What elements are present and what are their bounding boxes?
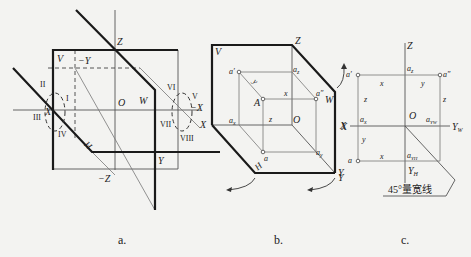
label-z-b: Z bbox=[295, 35, 301, 46]
right-octant-rotation-icon bbox=[172, 93, 192, 131]
point-a-double-prime-c bbox=[438, 73, 442, 77]
label-octant-2: II bbox=[40, 80, 46, 89]
label-dim-x-top: x bbox=[379, 79, 384, 88]
label-w-plane-b: W bbox=[325, 94, 335, 105]
label-ay-b: ay bbox=[316, 148, 323, 158]
caption-c: c. bbox=[401, 233, 409, 247]
label-a-double-prime-b: a″ bbox=[316, 89, 324, 98]
label-dim-z-b: z bbox=[268, 115, 273, 124]
label-x-left: X bbox=[44, 106, 52, 117]
label-dim-y-top: y bbox=[420, 79, 425, 88]
label-a-c: a bbox=[348, 156, 352, 165]
label-yw-c: YW bbox=[452, 121, 464, 133]
label-octant-8: VIII bbox=[180, 134, 194, 143]
label-yh-c: YH bbox=[408, 165, 419, 177]
label-dim-y-b: y bbox=[250, 76, 260, 86]
label-az-b: az bbox=[293, 65, 300, 75]
figure-c: Z a′ az a″ x y z z O ax aYW X YW y x a a… bbox=[338, 40, 464, 247]
label-dim-y-left: y bbox=[361, 135, 366, 144]
point-a-c bbox=[356, 159, 360, 163]
label-a-prime-b: a′ bbox=[229, 67, 235, 76]
label-origin: O bbox=[118, 97, 125, 108]
label-neg-z: −Z bbox=[98, 173, 111, 184]
label-z: Z bbox=[117, 36, 123, 47]
label-octant-7: VII bbox=[160, 120, 171, 129]
caption-b: b. bbox=[274, 233, 283, 247]
label-x-right: X bbox=[199, 119, 207, 130]
label-dim-x-bottom: x bbox=[379, 152, 384, 161]
point-a-prime bbox=[237, 70, 241, 74]
w-rotation-arrow-icon-bottom bbox=[310, 178, 335, 190]
label-A: A bbox=[253, 97, 261, 108]
label-dim-z-left: z bbox=[363, 95, 368, 104]
figure-a: V Z −Y O W X −X X Y −Z H I II III IV V V… bbox=[13, 10, 220, 247]
box-a-prime-a bbox=[239, 72, 263, 99]
label-ayh-c: aYH bbox=[407, 151, 418, 161]
h-rotation-arrow-icon bbox=[228, 178, 255, 190]
label-y: Y bbox=[158, 155, 165, 166]
label-z-c: Z bbox=[407, 40, 413, 51]
label-origin-b: O bbox=[293, 114, 300, 125]
label-octant-5: V bbox=[192, 92, 198, 101]
w-rotation-arrow-icon-top bbox=[337, 66, 344, 88]
h-plane-front-diagonal bbox=[92, 152, 115, 175]
label-a-prime-c: a′ bbox=[346, 70, 352, 79]
label-neg-x: −X bbox=[190, 102, 204, 113]
arrowhead-icon bbox=[226, 187, 232, 192]
label-a-b: a bbox=[264, 154, 268, 163]
arrowhead-icon bbox=[341, 63, 347, 69]
figure-b: V Z a′ az y A x a″ W ax z O a ay X Y H b… bbox=[212, 35, 347, 247]
label-ax-c: ax bbox=[360, 115, 367, 125]
label-octant-1: I bbox=[66, 94, 69, 103]
label-dim-x-b: x bbox=[283, 89, 288, 98]
label-w-plane: W bbox=[139, 95, 149, 106]
caption-a: a. bbox=[118, 233, 126, 247]
label-neg-y: −Y bbox=[78, 55, 92, 66]
box-ax-a bbox=[239, 125, 263, 152]
label-h-plane: H bbox=[82, 139, 95, 152]
arrowhead-icon bbox=[307, 187, 313, 192]
label-y-left-c: Y bbox=[338, 167, 345, 178]
label-a-double-prime-c: a″ bbox=[443, 70, 451, 79]
point-a-prime-c bbox=[356, 73, 360, 77]
y-axis-b bbox=[292, 125, 335, 173]
label-x-c: X bbox=[340, 121, 348, 132]
projection-diagram: V Z −Y O W X −X X Y −Z H I II III IV V V… bbox=[0, 0, 471, 257]
label-az-c: az bbox=[407, 64, 414, 74]
label-dim-z-right: z bbox=[442, 95, 447, 104]
label-v-plane-b: V bbox=[215, 46, 223, 57]
label-ax-b: ax bbox=[229, 116, 236, 126]
point-A bbox=[261, 97, 265, 101]
label-45-degree-line: 45°量宽线 bbox=[388, 183, 432, 195]
label-octant-6: VI bbox=[167, 83, 176, 92]
label-origin-c: O bbox=[409, 110, 416, 121]
label-v-plane: V bbox=[57, 53, 65, 64]
label-octant-4: IV bbox=[58, 130, 67, 139]
label-octant-3: III bbox=[33, 113, 41, 122]
label-ayw-c: aYW bbox=[426, 115, 438, 125]
